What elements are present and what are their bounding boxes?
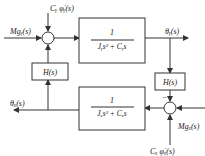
- right-summing-junction: [164, 102, 176, 114]
- cy-phi-label: Cᵧ φ̇ᵧ(s): [50, 4, 74, 13]
- bottom-block-denominator: Jₓs² + Cₓs: [97, 109, 127, 118]
- theta-x-label: θₓ(s): [10, 99, 25, 108]
- top-block-numerator: 1: [110, 28, 114, 37]
- bottom-block-numerator: 1: [110, 96, 114, 105]
- theta-y-label: θᵧ(s): [165, 27, 180, 36]
- right-feedback-label: H(s): [162, 78, 178, 87]
- left-feedback-label: H(s): [42, 68, 58, 77]
- top-summing-junction: [42, 32, 54, 44]
- block-diagram: 1 Jᵧs² + Cᵧs 1 Jₓs² + Cₓs H(s) H(s) Mɡᵧ(…: [0, 0, 205, 156]
- minus-sign: −: [162, 93, 167, 102]
- cx-phi-label: Cₓ φ̇ₓ(s): [150, 147, 175, 156]
- mgx-label: Mɡₓ(s): [177, 122, 200, 131]
- mgy-label: Mɡᵧ(s): [9, 27, 31, 36]
- top-block-denominator: Jᵧs² + Cᵧs: [98, 42, 127, 51]
